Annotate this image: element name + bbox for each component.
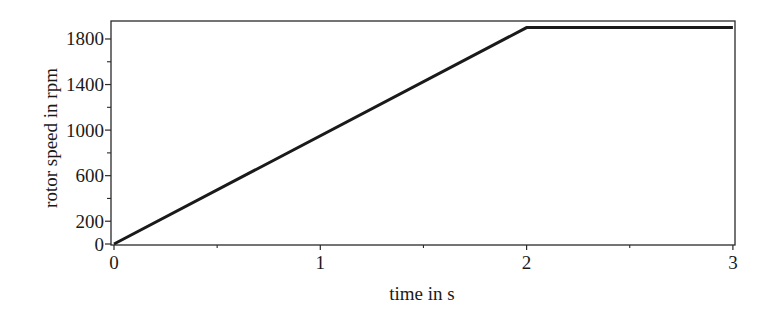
- rotor-speed-line: [114, 28, 733, 244]
- y-tick-label: 200: [76, 211, 105, 232]
- data-series: [114, 28, 733, 244]
- y-axis-label: rotor speed in rpm: [40, 68, 61, 208]
- y-tick-label: 1800: [66, 28, 104, 49]
- x-tick-label: 2: [522, 252, 532, 273]
- y-tick-label: 1000: [66, 120, 104, 141]
- y-tick-label: 0: [95, 234, 105, 255]
- x-tick-label: 1: [316, 252, 326, 273]
- y-tick-label: 600: [76, 165, 105, 186]
- x-axis-label: time in s: [389, 283, 454, 304]
- plot-frame: [111, 21, 735, 245]
- x-tick-label: 0: [109, 252, 119, 273]
- x-axis: 0123: [109, 245, 737, 273]
- plot-border: [111, 21, 735, 245]
- rotor-speed-chart: 0200600100014001800 0123 time in s rotor…: [0, 0, 774, 312]
- y-tick-label: 1400: [66, 74, 104, 95]
- x-tick-label: 3: [728, 252, 738, 273]
- y-axis: 0200600100014001800: [66, 28, 111, 254]
